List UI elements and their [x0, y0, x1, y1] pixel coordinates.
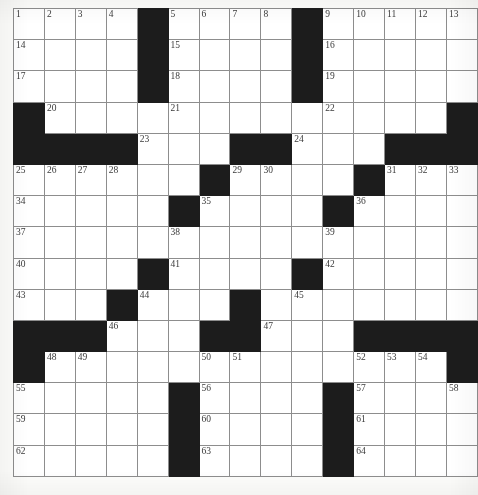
crossword-cell[interactable] [199, 133, 230, 164]
crossword-cell[interactable] [44, 289, 75, 320]
crossword-cell[interactable]: 21 [168, 102, 199, 133]
crossword-cell[interactable] [292, 445, 323, 476]
crossword-cell[interactable]: 41 [168, 258, 199, 289]
crossword-cell[interactable] [261, 289, 292, 320]
crossword-cell[interactable]: 12 [415, 9, 446, 40]
crossword-cell[interactable]: 9 [323, 9, 354, 40]
crossword-cell[interactable] [199, 102, 230, 133]
crossword-cell[interactable]: 64 [354, 445, 385, 476]
crossword-cell[interactable] [137, 445, 168, 476]
crossword-cell[interactable] [106, 227, 137, 258]
crossword-cell[interactable] [385, 445, 416, 476]
crossword-cell[interactable] [75, 196, 106, 227]
crossword-cell[interactable] [137, 227, 168, 258]
crossword-cell[interactable] [137, 352, 168, 383]
crossword-cell[interactable] [323, 133, 354, 164]
crossword-cell[interactable] [199, 40, 230, 71]
crossword-cell[interactable]: 23 [137, 133, 168, 164]
crossword-cell[interactable] [168, 320, 199, 351]
crossword-cell[interactable]: 27 [75, 164, 106, 195]
crossword-cell[interactable] [199, 227, 230, 258]
crossword-cell[interactable]: 40 [14, 258, 45, 289]
crossword-cell[interactable] [106, 383, 137, 414]
crossword-cell[interactable] [44, 40, 75, 71]
crossword-cell[interactable]: 37 [14, 227, 45, 258]
crossword-cell[interactable]: 55 [14, 383, 45, 414]
crossword-cell[interactable] [354, 133, 385, 164]
crossword-cell[interactable]: 13 [446, 9, 477, 40]
crossword-cell[interactable]: 47 [261, 320, 292, 351]
crossword-cell[interactable] [292, 196, 323, 227]
crossword-cell[interactable] [354, 71, 385, 102]
crossword-cell[interactable] [261, 352, 292, 383]
crossword-cell[interactable] [385, 414, 416, 445]
crossword-cell[interactable] [230, 414, 261, 445]
crossword-cell[interactable]: 52 [354, 352, 385, 383]
crossword-cell[interactable]: 31 [385, 164, 416, 195]
crossword-cell[interactable] [292, 227, 323, 258]
crossword-cell[interactable] [75, 414, 106, 445]
crossword-cell[interactable]: 29 [230, 164, 261, 195]
crossword-cell[interactable] [199, 258, 230, 289]
crossword-cell[interactable]: 38 [168, 227, 199, 258]
crossword-cell[interactable] [75, 227, 106, 258]
crossword-cell[interactable] [385, 289, 416, 320]
crossword-cell[interactable] [415, 414, 446, 445]
crossword-cell[interactable] [44, 71, 75, 102]
crossword-cell[interactable]: 35 [199, 196, 230, 227]
crossword-cell[interactable]: 3 [75, 9, 106, 40]
crossword-cell[interactable] [415, 40, 446, 71]
crossword-cell[interactable] [292, 414, 323, 445]
crossword-cell[interactable]: 26 [44, 164, 75, 195]
crossword-cell[interactable]: 14 [14, 40, 45, 71]
crossword-cell[interactable]: 24 [292, 133, 323, 164]
crossword-cell[interactable] [446, 289, 477, 320]
crossword-cell[interactable] [261, 102, 292, 133]
crossword-cell[interactable] [446, 71, 477, 102]
crossword-cell[interactable] [137, 383, 168, 414]
crossword-cell[interactable]: 54 [415, 352, 446, 383]
crossword-cell[interactable] [168, 289, 199, 320]
crossword-cell[interactable] [292, 164, 323, 195]
crossword-cell[interactable] [415, 102, 446, 133]
crossword-cell[interactable]: 5 [168, 9, 199, 40]
crossword-cell[interactable] [137, 320, 168, 351]
crossword-cell[interactable]: 10 [354, 9, 385, 40]
crossword-cell[interactable] [44, 445, 75, 476]
crossword-cell[interactable]: 61 [354, 414, 385, 445]
crossword-cell[interactable] [230, 71, 261, 102]
crossword-cell[interactable]: 2 [44, 9, 75, 40]
crossword-cell[interactable]: 25 [14, 164, 45, 195]
crossword-cell[interactable] [230, 383, 261, 414]
crossword-cell[interactable] [44, 258, 75, 289]
crossword-cell[interactable] [106, 352, 137, 383]
crossword-cell[interactable] [75, 445, 106, 476]
crossword-cell[interactable]: 39 [323, 227, 354, 258]
crossword-cell[interactable] [415, 258, 446, 289]
crossword-cell[interactable] [230, 227, 261, 258]
crossword-cell[interactable]: 53 [385, 352, 416, 383]
crossword-cell[interactable]: 18 [168, 71, 199, 102]
crossword-cell[interactable]: 32 [415, 164, 446, 195]
crossword-cell[interactable] [261, 414, 292, 445]
crossword-cell[interactable] [261, 40, 292, 71]
crossword-cell[interactable]: 36 [354, 196, 385, 227]
crossword-cell[interactable]: 48 [44, 352, 75, 383]
crossword-cell[interactable]: 49 [75, 352, 106, 383]
crossword-cell[interactable] [323, 164, 354, 195]
crossword-puzzle[interactable]: 1234567891011121314151617181920212223242… [13, 8, 478, 477]
crossword-cell[interactable] [292, 383, 323, 414]
crossword-cell[interactable] [292, 320, 323, 351]
crossword-cell[interactable] [415, 227, 446, 258]
crossword-cell[interactable]: 51 [230, 352, 261, 383]
crossword-cell[interactable]: 59 [14, 414, 45, 445]
crossword-cell[interactable]: 6 [199, 9, 230, 40]
crossword-cell[interactable] [292, 102, 323, 133]
crossword-cell[interactable] [446, 445, 477, 476]
crossword-cell[interactable] [106, 196, 137, 227]
crossword-cell[interactable] [261, 383, 292, 414]
crossword-cell[interactable] [446, 258, 477, 289]
crossword-cell[interactable]: 43 [14, 289, 45, 320]
crossword-cell[interactable] [168, 164, 199, 195]
crossword-cell[interactable] [415, 71, 446, 102]
